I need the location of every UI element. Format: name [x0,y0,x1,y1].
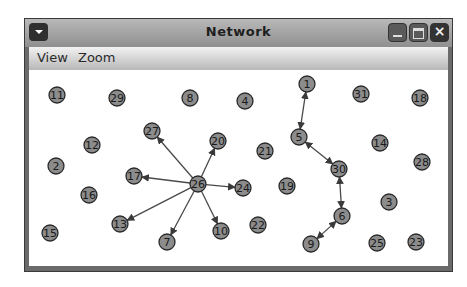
node-label: 29 [110,92,124,105]
graph-node[interactable]: 21 [257,143,273,159]
edges-layer [127,92,341,239]
graph-edge [202,191,218,224]
graph-node[interactable]: 11 [49,87,65,103]
graph-node[interactable]: 20 [210,133,226,149]
graph-edge [305,142,333,164]
graph-node[interactable]: 7 [159,234,175,250]
graph-node[interactable]: 16 [81,187,97,203]
graph-node[interactable]: 14 [372,135,388,151]
graph-node[interactable]: 12 [84,137,100,153]
graph-edge [300,92,306,129]
graph-node[interactable]: 13 [112,216,128,232]
graph-node[interactable]: 31 [353,86,369,102]
graph-node[interactable]: 24 [235,180,251,196]
graph-node[interactable]: 27 [144,123,160,139]
title-bar[interactable]: Network × [25,19,452,47]
graph-node[interactable]: 26 [190,176,206,192]
close-icon: × [431,23,448,39]
node-label: 5 [296,131,303,144]
graph-node[interactable]: 10 [213,223,229,239]
maximize-button[interactable] [409,23,428,42]
node-label: 4 [242,95,249,108]
network-graph[interactable]: 1234567891011121314151617181920212223242… [29,70,448,266]
graph-edge [340,177,342,208]
node-label: 6 [339,210,346,223]
node-label: 31 [354,88,368,101]
graph-node[interactable]: 4 [237,93,253,109]
node-label: 25 [370,237,384,250]
node-label: 1 [304,78,311,91]
graph-node[interactable]: 25 [369,235,385,251]
node-label: 27 [145,125,159,138]
menu-bar: View Zoom [29,47,448,70]
graph-edge [201,148,214,176]
graph-node[interactable]: 29 [109,90,125,106]
graph-node[interactable]: 22 [250,217,266,233]
graph-edge [171,191,194,235]
node-label: 8 [187,92,194,105]
graph-node[interactable]: 30 [331,161,347,177]
node-label: 2 [53,160,60,173]
node-label: 3 [386,196,393,209]
network-window: Network × View Zoom 12345678910111213141… [24,18,453,272]
node-label: 23 [409,236,423,249]
graph-node[interactable]: 17 [126,168,142,184]
graph-node[interactable]: 28 [414,154,430,170]
node-label: 9 [308,238,315,251]
node-label: 19 [280,180,294,193]
graph-node[interactable]: 6 [334,208,350,224]
graph-node[interactable]: 1 [299,76,315,92]
node-label: 17 [127,170,141,183]
graph-node[interactable]: 23 [408,234,424,250]
node-label: 14 [373,137,387,150]
graph-node[interactable]: 9 [303,236,319,252]
graph-node[interactable]: 15 [42,225,58,241]
graph-edge [206,185,235,188]
minimize-button[interactable] [388,23,407,42]
node-label: 28 [415,156,429,169]
graph-node[interactable]: 2 [48,158,64,174]
graph-node[interactable]: 5 [291,129,307,145]
graph-node[interactable]: 3 [381,194,397,210]
node-label: 18 [413,92,427,105]
graph-node[interactable]: 19 [279,178,295,194]
graph-node[interactable]: 18 [412,90,428,106]
graph-edge [317,221,336,238]
node-label: 10 [214,225,228,238]
graph-edge [157,137,193,178]
node-label: 12 [85,139,99,152]
nodes-layer: 1234567891011121314151617181920212223242… [42,76,430,252]
node-label: 22 [251,219,265,232]
menu-zoom[interactable]: Zoom [78,50,115,65]
close-button[interactable]: × [430,23,449,42]
node-label: 30 [332,163,346,176]
node-label: 16 [82,189,96,202]
graph-edge [142,177,190,183]
node-label: 13 [113,218,127,231]
node-label: 11 [50,89,64,102]
graph-canvas[interactable]: 1234567891011121314151617181920212223242… [29,70,448,266]
graph-node[interactable]: 8 [182,90,198,106]
node-label: 26 [191,178,205,191]
menu-view[interactable]: View [37,50,68,65]
node-label: 21 [258,145,272,158]
node-label: 20 [211,135,225,148]
node-label: 24 [236,182,250,195]
node-label: 7 [164,236,171,249]
node-label: 15 [43,227,57,240]
